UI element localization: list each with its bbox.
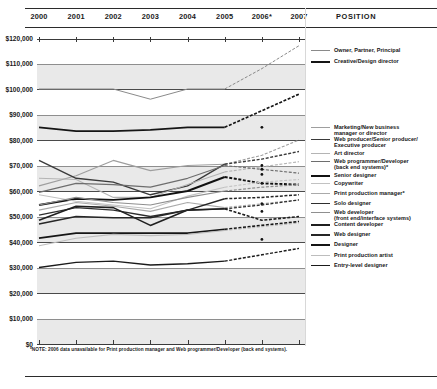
x-tick [188, 340, 189, 345]
legend-label: Designer [334, 241, 358, 247]
legend-item[interactable]: Print production manager* [311, 190, 405, 196]
missing-data-marker [260, 168, 263, 171]
year-header-2002: 2002 [96, 12, 130, 21]
x-tick [39, 37, 40, 42]
legend-swatch-line-icon [311, 255, 330, 256]
legend-item[interactable]: Content developer [311, 221, 383, 227]
series-line [39, 199, 225, 224]
x-tick [39, 340, 40, 345]
y-tick-label: $40,000 [9, 239, 33, 246]
data-point-marker [261, 182, 264, 185]
x-tick [76, 37, 77, 42]
x-tick [225, 37, 226, 42]
series-line [225, 222, 299, 230]
legend-item[interactable]: Art director [311, 150, 365, 156]
series-line [225, 248, 299, 261]
series-line [39, 261, 225, 267]
data-point-marker [261, 210, 264, 213]
legend-swatch-line-icon [311, 50, 330, 51]
legend-label: Creative/Design director [334, 58, 399, 64]
legend-swatch-line-icon [311, 61, 330, 63]
legend-label: Content developer [334, 221, 383, 227]
legend-item[interactable]: Designer [311, 241, 358, 247]
series-line [225, 94, 299, 127]
legend-swatch-line-icon [311, 127, 330, 128]
legend-item[interactable]: Owner, Partner, Principal [311, 47, 400, 53]
y-tick-label: $80,000 [9, 137, 33, 144]
legend-item[interactable]: Solo designer [311, 200, 371, 206]
legend-swatch-line-icon [311, 244, 330, 246]
position-column-header: POSITION [336, 12, 376, 21]
x-tick [76, 340, 77, 345]
year-header-2007: 2007 [282, 12, 316, 21]
series-lines [37, 38, 305, 344]
year-header-2005: 2005 [208, 12, 242, 21]
year-header-2006: 2006* [245, 12, 279, 21]
header-rule-top [25, 8, 437, 9]
legend-label: Art director [334, 150, 365, 156]
legend-label: Owner, Partner, Principal [334, 47, 400, 53]
legend-label: Copywriter [334, 180, 363, 186]
x-tick [299, 37, 300, 42]
legend-swatch-line-icon [311, 203, 330, 204]
series-line [39, 89, 225, 99]
legend-label: Web programmer/Developer (back end syste… [334, 158, 409, 170]
legend-item[interactable]: Marketing/New business manager or direct… [311, 124, 399, 136]
legend-label: Entry-level designer [334, 262, 388, 268]
year-header-2004: 2004 [171, 12, 205, 21]
year-header-2001: 2001 [59, 12, 93, 21]
y-tick-label: $90,000 [9, 111, 33, 118]
legend-label: Solo designer [334, 200, 371, 206]
legend-swatch-line-icon [311, 265, 330, 266]
x-tick [299, 340, 300, 345]
data-point-marker [261, 126, 264, 129]
y-axis-labels: $120,000$110,000$100,000$90,000$80,000$7… [0, 0, 33, 389]
legend-swatch-line-icon [311, 212, 330, 213]
plot-area [37, 38, 305, 344]
legend-swatch-line-icon [311, 234, 330, 236]
x-tick [262, 37, 263, 42]
legend-label: Web designer [334, 231, 371, 237]
y-tick-label: $60,000 [9, 188, 33, 195]
legend-label: Web developer (front end/interface syste… [334, 209, 411, 221]
x-tick [150, 37, 151, 42]
legend-label: Marketing/New business manager or direct… [334, 124, 399, 136]
footnote: *NOTE: 2006 data unavailable for Print p… [30, 347, 350, 352]
x-tick [262, 340, 263, 345]
y-tick-label: $120,000 [5, 35, 33, 42]
series-line [39, 127, 225, 131]
y-tick-label: $50,000 [9, 213, 33, 220]
y-tick-label: $20,000 [9, 290, 33, 297]
series-line [225, 223, 299, 231]
series-line [225, 46, 299, 89]
header-rule-bottom [25, 27, 437, 28]
legend-swatch-line-icon [311, 139, 330, 140]
legend-item[interactable]: Web designer [311, 231, 371, 237]
legend-label: Web producer/Senior producer/ Executive … [334, 136, 418, 148]
y-tick-label: $30,000 [9, 264, 33, 271]
legend-item[interactable]: Creative/Design director [311, 58, 399, 64]
legend-label: Print production artist [334, 252, 393, 258]
y-tick-label: $70,000 [9, 162, 33, 169]
x-tick [113, 37, 114, 42]
legend-item[interactable]: Entry-level designer [311, 262, 388, 268]
legend-item[interactable]: Web producer/Senior producer/ Executive … [311, 136, 418, 148]
x-tick [225, 340, 226, 345]
x-axis-bottom [37, 344, 305, 345]
legend-swatch-line-icon [311, 175, 330, 177]
legend-item[interactable]: Copywriter [311, 180, 363, 186]
legend-item[interactable]: Print production artist [311, 252, 393, 258]
data-point-marker [261, 173, 264, 176]
legend-swatch-line-icon [311, 161, 330, 162]
legend-item[interactable]: Web developer (front end/interface syste… [311, 209, 411, 221]
year-header-2003: 2003 [133, 12, 167, 21]
series-line [225, 195, 299, 199]
legend-item[interactable]: Senior designer [311, 172, 376, 178]
x-tick [113, 340, 114, 345]
legend-divider [305, 8, 306, 346]
legend-item[interactable]: Web programmer/Developer (back end syste… [311, 158, 409, 170]
chart-page: 2000200120022003200420052006*2007 POSITI… [0, 0, 437, 389]
data-point-marker [261, 164, 264, 167]
series-line [225, 140, 299, 164]
x-tick [150, 340, 151, 345]
